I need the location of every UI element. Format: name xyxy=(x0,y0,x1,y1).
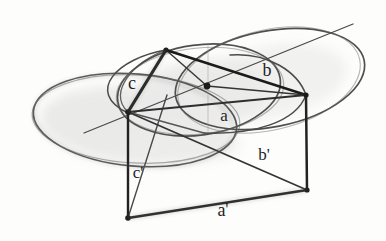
label-side-b-prime: b' xyxy=(258,146,270,163)
label-side-c: c xyxy=(128,74,136,92)
label-side-a: a xyxy=(220,107,228,124)
right-vertex xyxy=(303,92,308,97)
label-side-c-prime: c' xyxy=(133,164,144,181)
geometry-sketch xyxy=(0,0,386,241)
label-side-b: b xyxy=(263,61,272,79)
edge-right-vertical xyxy=(306,95,307,190)
marked-point xyxy=(204,83,211,90)
label-side-a-prime: a' xyxy=(217,201,228,219)
sketch-canvas: c b a c' b' a' xyxy=(0,0,386,241)
